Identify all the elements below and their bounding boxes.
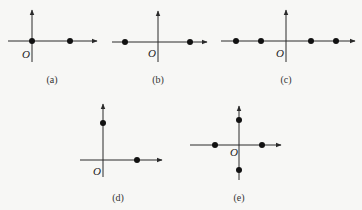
point — [67, 38, 73, 44]
point — [187, 39, 193, 45]
origin-label: O — [22, 48, 30, 60]
point — [258, 38, 264, 44]
figure-caption: (e) — [233, 192, 244, 204]
figure-caption: (b) — [152, 74, 164, 86]
point — [233, 38, 239, 44]
point — [236, 117, 242, 123]
figure-d: O(d) — [80, 104, 162, 204]
point — [122, 39, 128, 45]
origin-label: O — [148, 47, 156, 59]
figure-b: O(b) — [112, 11, 207, 86]
figure-e: O(e) — [190, 106, 281, 204]
figure-caption: (a) — [46, 74, 57, 86]
point — [29, 38, 35, 44]
point — [100, 120, 106, 126]
figure-a: O(a) — [8, 10, 97, 86]
diagram-canvas: O(a)O(b)O(c)O(d)O(e) — [0, 0, 362, 210]
origin-label: O — [276, 47, 284, 59]
origin-label: O — [93, 165, 101, 177]
origin-label: O — [230, 146, 238, 158]
point — [236, 167, 242, 173]
point — [333, 38, 339, 44]
figure-caption: (d) — [112, 192, 124, 204]
point — [134, 157, 140, 163]
point — [212, 142, 218, 148]
point — [259, 142, 265, 148]
figure-c: O(c) — [221, 10, 355, 86]
point — [308, 38, 314, 44]
figure-caption: (c) — [280, 74, 291, 86]
